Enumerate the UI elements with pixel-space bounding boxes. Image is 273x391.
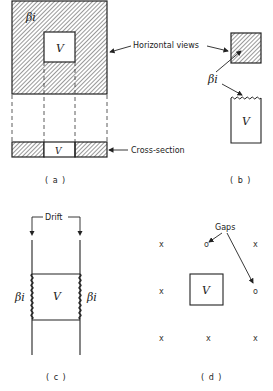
caption-b: ( b )	[230, 176, 251, 185]
drift-arrow-left	[30, 231, 35, 236]
gap-mark: o	[204, 240, 209, 249]
caption-a: ( a )	[45, 176, 66, 185]
gap-mark: o	[253, 287, 258, 296]
horizontal-view-small	[231, 33, 261, 63]
panel-a: βi V V Horizontal views Cross-section ( …	[12, 1, 228, 185]
cross-section-label: Cross-section	[131, 146, 185, 155]
volume-label: V	[56, 42, 65, 55]
grid-mark: x	[159, 334, 164, 343]
grid-mark: x	[253, 334, 258, 343]
arrow-gap-right	[227, 233, 253, 283]
wavy-boundary-right	[79, 274, 81, 319]
arrow-horizontal-left	[110, 46, 131, 52]
wavy-boundary-left	[31, 274, 33, 319]
beta-label: βi	[207, 73, 218, 86]
drift-label: Drift	[45, 213, 62, 222]
panel-d: Gaps x o x x o x x x V ( d )	[159, 223, 258, 382]
volume-label: V	[242, 115, 251, 128]
volume-label: V	[202, 284, 211, 297]
beta-left-label: βi	[14, 291, 25, 304]
caption-d: ( d )	[201, 373, 222, 382]
caption-c: ( c )	[46, 373, 67, 382]
beta-right-label: βi	[86, 291, 97, 304]
volume-label: V	[53, 290, 62, 303]
arrow-horizontal-right	[207, 46, 228, 51]
grid-mark: x	[159, 240, 164, 249]
arrow-gap-top	[209, 233, 222, 242]
beta-label: βi	[25, 11, 36, 24]
panel-c: Drift βi βi V ( c )	[14, 213, 97, 382]
panel-b: βi V ( b )	[207, 33, 261, 185]
grid-mark: x	[159, 287, 164, 296]
drift-arrow-right	[78, 231, 83, 236]
horizontal-views-label: Horizontal views	[133, 41, 199, 50]
gaps-label: Gaps	[215, 223, 235, 232]
grid-mark: x	[253, 240, 258, 249]
diagram-svg: βi V V Horizontal views Cross-section ( …	[0, 0, 273, 391]
grid-mark: x	[206, 334, 211, 343]
diagram-canvas: βi V V Horizontal views Cross-section ( …	[0, 0, 273, 391]
arrow-beta-down	[222, 84, 242, 95]
